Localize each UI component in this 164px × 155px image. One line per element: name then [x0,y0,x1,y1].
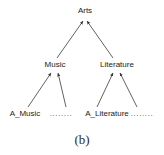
edge-a-literature-to-literature [97,73,113,107]
node-arts: Arts [78,7,92,15]
node-music: Music [45,61,66,69]
edge-ellipsis-right-to-literature [120,73,137,107]
node-a-literature: A_Literature [85,110,129,118]
tree-diagram-figure: Arts Music Literature A_Music ........ A… [0,0,164,155]
edge-literature-to-arts [87,21,113,58]
edge-a-music-to-music [28,73,51,107]
edge-music-to-arts [57,21,83,58]
figure-caption: (b) [74,132,89,148]
node-a-music: A_Music [10,110,41,118]
node-literature: Literature [100,61,134,69]
node-ellipsis-right: ........ [131,110,154,118]
edge-ellipsis-left-to-music [58,73,66,107]
node-ellipsis-left: ........ [50,110,73,118]
